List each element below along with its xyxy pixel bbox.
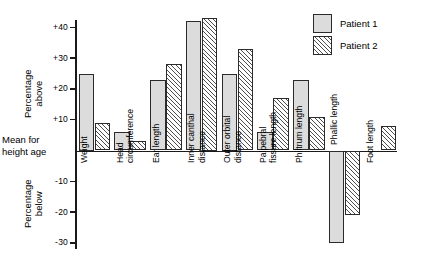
category-label-head-circumference: Head bbox=[116, 142, 126, 163]
y-tick-label-wrap: -30 bbox=[0, 238, 68, 247]
y-tick-label-+30: +30 bbox=[0, 54, 68, 63]
category-label-palpebral-fissure-length: fissure length bbox=[269, 111, 279, 162]
category-label-inner-canthal-distance: distance bbox=[198, 130, 208, 162]
category-label-outer-orbital-distance: Outer orbital bbox=[223, 115, 233, 162]
bar-foot-length-patient-2 bbox=[381, 126, 397, 151]
category-label-weight: Weight bbox=[80, 136, 90, 163]
bar-ear-length-patient-2 bbox=[166, 64, 182, 150]
y-axis-title-above-line2: above bbox=[33, 69, 44, 118]
category-label-ear-length: Ear length bbox=[152, 123, 162, 162]
legend-swatch-patient-2 bbox=[313, 36, 332, 55]
legend-swatch-patient-1 bbox=[313, 14, 332, 33]
bar-phallic-length-patient-1 bbox=[329, 151, 345, 243]
y-tick-label-wrap: +40 bbox=[0, 23, 68, 32]
bar-phallic-length-patient-2 bbox=[345, 151, 361, 216]
y-axis-title-below-line2: below bbox=[33, 179, 44, 228]
legend-label-patient-2: Patient 2 bbox=[340, 41, 378, 51]
plot-area: WeightHeadcircumferenceEar lengthInner c… bbox=[75, 20, 397, 249]
bar-philtrum-length-patient-2 bbox=[309, 117, 325, 151]
category-label-phallic-length: Phallic length bbox=[330, 93, 340, 144]
y-tick-label-wrap: +30 bbox=[0, 54, 68, 63]
mean-for-height-age-label: Mean for height age bbox=[2, 134, 72, 157]
percentage-deviation-bar-chart: +40+30+20+10-10-20-30 Mean for height ag… bbox=[0, 0, 424, 269]
y-axis-title-below: Percentage below bbox=[22, 179, 44, 228]
y-tick-label--30: -30 bbox=[0, 238, 68, 247]
y-tick-label-+40: +40 bbox=[0, 23, 68, 32]
y-axis-title-above-line1: Percentage bbox=[22, 69, 33, 118]
category-label-philtrum-length: Philtrum length bbox=[295, 105, 305, 162]
category-label-foot-length: Foot length bbox=[366, 120, 376, 163]
category-label-inner-canthal-distance: Inner canthal bbox=[187, 113, 197, 163]
mean-label-line1: Mean for bbox=[2, 134, 72, 146]
legend-label-patient-1: Patient 1 bbox=[340, 19, 378, 29]
mean-label-line2: height age bbox=[2, 146, 72, 158]
y-axis-title-below-line1: Percentage bbox=[22, 179, 33, 228]
category-label-outer-orbital-distance: distance bbox=[234, 130, 244, 162]
bar-weight-patient-2 bbox=[95, 123, 111, 151]
category-label-head-circumference: circumference bbox=[126, 109, 136, 163]
y-axis-title-above: Percentage above bbox=[22, 69, 44, 118]
